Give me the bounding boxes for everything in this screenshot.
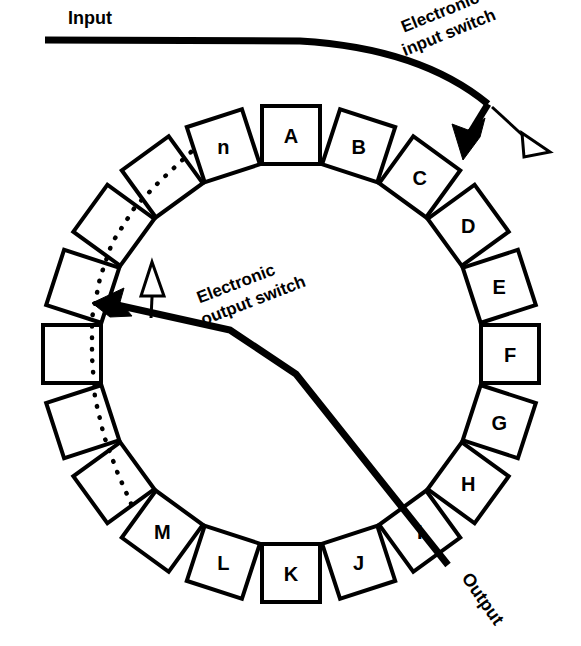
cell-k-label: K (284, 563, 299, 585)
cell-m-label: M (154, 521, 171, 543)
output-label: Output (458, 569, 508, 629)
cell-f-label: F (504, 344, 516, 366)
cell-d-label: D (461, 215, 475, 237)
input-rotation-arrow-icon (522, 133, 550, 157)
figure-canvas: ABCDEFGHIJKLMn Input Electronic input sw… (0, 0, 581, 646)
output-rotation-arrow-icon (141, 262, 164, 296)
storage-cell: K (262, 544, 320, 602)
storage-cell: n (187, 109, 260, 182)
cell-j-label: J (353, 552, 364, 574)
cell-a-label: A (284, 125, 298, 147)
cell-c-label: C (412, 167, 426, 189)
storage-cell: F (481, 325, 539, 383)
cell-l-label: L (217, 552, 229, 574)
storage-cell: E (463, 250, 536, 323)
input-switch-arrowhead-icon (452, 118, 485, 160)
cell-n-label: n (217, 136, 229, 158)
cell-h-label: H (461, 473, 475, 495)
input-switch-label: Electronic input switch (391, 0, 498, 60)
cell-b-label: B (351, 136, 365, 158)
cell-g-label: G (491, 412, 507, 434)
cell-u2-box (46, 385, 119, 458)
storage-cell: L (187, 526, 260, 599)
cell-e-label: E (493, 276, 506, 298)
storage-cell (46, 385, 119, 458)
storage-cell: G (463, 385, 536, 458)
output-switch-label: Electronic output switch (190, 251, 308, 329)
input-label: Input (68, 8, 112, 28)
storage-cell: B (322, 109, 395, 182)
switch-ring-diagram: ABCDEFGHIJKLMn Input Electronic input sw… (0, 0, 581, 646)
storage-cell-ring: ABCDEFGHIJKLMn (43, 106, 539, 602)
storage-cell: A (262, 106, 320, 164)
storage-cell: J (322, 526, 395, 599)
